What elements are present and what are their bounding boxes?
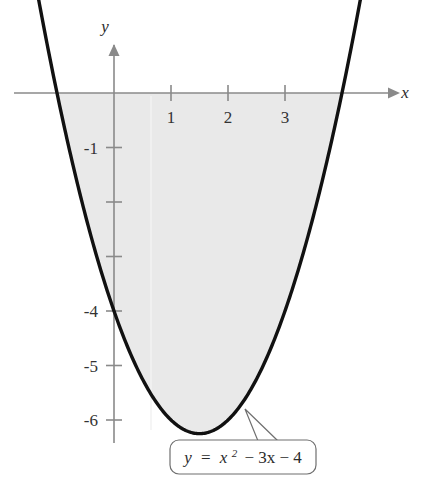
y-tick-label-minus4: -4 [84, 302, 99, 321]
callout-equation-eq: = [201, 448, 211, 467]
parabola-figure: y x 1 2 3 -1 -4 -5 -6 y = x 2 − 3x − 4 [0, 0, 427, 491]
x-axis-label: x [400, 83, 409, 102]
y-tick-label-minus1: -1 [84, 139, 98, 158]
x-tick-label-2: 2 [224, 108, 233, 127]
callout-pointer [245, 409, 278, 441]
callout-equation-base: x [219, 448, 228, 467]
x-tick-label-3: 3 [281, 108, 290, 127]
y-tick-label-minus6: -6 [84, 411, 98, 430]
x-axis-arrowhead [388, 88, 400, 99]
y-tick-label-minus5: -5 [84, 357, 98, 376]
callout-equation-lhs: y [182, 448, 192, 467]
callout-equation-rest: − 3x − 4 [244, 448, 302, 467]
y-axis-arrowhead [109, 44, 120, 56]
callout-equation-exponent: 2 [232, 447, 238, 459]
y-axis-label: y [99, 17, 109, 36]
x-tick-label-1: 1 [167, 108, 176, 127]
